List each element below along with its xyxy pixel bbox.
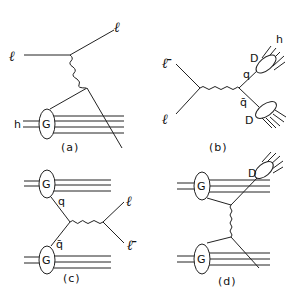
caption-a: (a): [61, 141, 79, 154]
g-blob-top-label: G: [197, 180, 206, 193]
lepton-line: [176, 88, 200, 114]
photon-wavy-line: [70, 221, 103, 224]
lepton-label: ℓ: [126, 193, 132, 209]
lepton-label: ℓ: [162, 111, 168, 127]
hadron-jet-line: [275, 110, 286, 117]
g-blob-bottom-label: G: [42, 254, 51, 267]
photon-wavy-line: [70, 55, 86, 88]
antiquark-label: q̄: [56, 238, 63, 251]
g-blob-top-label: G: [42, 178, 51, 191]
frag-bottom-label: D: [245, 114, 253, 127]
panel-a: ℓ ℓ G h (a): [9, 19, 124, 154]
frag-top-label: D: [250, 52, 258, 65]
parton-line: [207, 198, 231, 205]
outgoing-quark-line: [231, 177, 258, 205]
photon-wavy-line: [200, 87, 239, 90]
caption-b: (b): [209, 141, 228, 154]
g-blob-bottom-label: G: [197, 253, 206, 266]
antilepton-line: [103, 222, 124, 243]
hadron-label: h: [14, 118, 21, 131]
hadron-label: h: [276, 33, 283, 46]
antilepton-line: [176, 64, 200, 88]
quark-label: q: [243, 68, 250, 81]
exchange-wavy-line: [230, 205, 232, 237]
quark-in-line: [50, 88, 87, 109]
antiquark-label: q̄: [240, 96, 247, 109]
panel-d: G D G (d): [177, 152, 283, 288]
quark-label: q: [58, 195, 65, 208]
caption-d: (d): [218, 275, 237, 288]
hadron-jet-line: [273, 167, 283, 173]
lepton-line: [103, 202, 124, 222]
fragmentation-blob-bottom: [253, 98, 286, 128]
quark-out-line: [87, 88, 122, 148]
panel-c: G q q̄ ℓ ℓ̄ G (c): [24, 170, 137, 285]
lepton-out-label: ℓ: [114, 19, 120, 35]
lepton-out-line: [70, 30, 114, 55]
antilepton-label: ℓ̄: [162, 55, 172, 71]
caption-c: (c): [63, 272, 81, 285]
antilepton-label: ℓ̄: [127, 237, 137, 253]
g-blob-label: G: [42, 118, 51, 131]
hadron-jet-line: [262, 152, 271, 162]
feynman-diagram-figure: ℓ ℓ G h (a) ℓ̄ ℓ q q̄: [0, 0, 292, 302]
parton-line: [207, 237, 231, 243]
lepton-in-label: ℓ: [9, 48, 15, 64]
frag-label: D: [248, 167, 256, 180]
panel-b: ℓ̄ ℓ q q̄ D h D (b): [162, 33, 286, 154]
